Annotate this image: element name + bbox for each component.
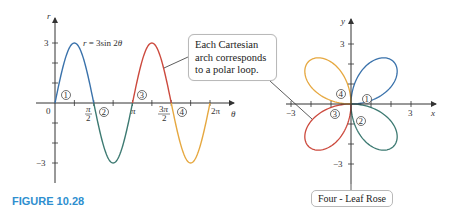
- callout-pointer-left: [164, 57, 188, 68]
- tick-label-pi-over-2: π 2: [85, 104, 92, 123]
- r-axis-label: r: [47, 11, 51, 21]
- y-axis-label: y: [340, 16, 345, 26]
- figure-canvas: r θ 3 −3 0 π 2 π 3π 2 2π r = 3sin 2θ 1 2…: [0, 0, 454, 215]
- marker-2: 2: [357, 116, 366, 126]
- loop-3: [305, 104, 351, 150]
- svg-text:2: 2: [359, 116, 364, 126]
- y-tick-label-neg3: −3: [333, 159, 343, 169]
- theta-axis-label: θ: [231, 109, 236, 119]
- svg-text:3: 3: [140, 90, 145, 100]
- svg-text:1: 1: [365, 94, 370, 104]
- x-axis-label: x: [430, 108, 435, 118]
- marker-4: 4: [337, 89, 346, 99]
- loop-1: [351, 58, 397, 104]
- x-tick-label-neg3: −3: [286, 108, 296, 118]
- marker-4: 4: [178, 107, 187, 117]
- svg-text:2: 2: [102, 107, 107, 117]
- svg-text:1: 1: [64, 90, 69, 100]
- marker-1: 1: [363, 94, 372, 104]
- callout-box: Each Cartesian arch corresponds to a pol…: [188, 34, 277, 81]
- svg-text:4: 4: [339, 89, 344, 99]
- svg-text:4: 4: [180, 107, 185, 117]
- equation-label: r = 3sin 2θ: [83, 38, 123, 48]
- tick-label-neg3: −3: [36, 158, 46, 168]
- tick-label-pi: π: [131, 106, 136, 116]
- arch-4: [171, 103, 210, 163]
- arch-1: [55, 43, 94, 103]
- svg-text:2: 2: [162, 113, 167, 123]
- marker-1: 1: [62, 90, 71, 100]
- svg-text:2: 2: [86, 113, 91, 123]
- marker-3: 3: [138, 90, 147, 100]
- tick-label-3pi-over-2: 3π 2: [158, 104, 170, 123]
- tick-label-0: 0: [46, 106, 51, 116]
- polar-plot: y x 3 −3 3 −3 4 1 3 2: [286, 16, 436, 184]
- loop-2: [351, 104, 397, 150]
- y-tick-label-3: 3: [340, 39, 345, 49]
- marker-2: 2: [100, 107, 109, 117]
- tick-label-3: 3: [44, 38, 49, 48]
- figure-title: FIGURE 10.28: [12, 195, 84, 207]
- tick-label-2pi: 2π: [211, 106, 221, 116]
- x-tick-label-3: 3: [408, 108, 413, 118]
- marker-3: 3: [331, 109, 340, 119]
- svg-text:3: 3: [333, 109, 338, 119]
- rose-label: Four - Leaf Rose: [311, 190, 393, 207]
